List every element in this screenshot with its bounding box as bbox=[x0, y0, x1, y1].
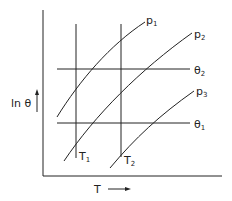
arrow-head-icon bbox=[35, 89, 39, 95]
p1-label: p1 bbox=[146, 14, 157, 28]
p2-curve bbox=[64, 33, 192, 161]
x-axis-label: T bbox=[93, 183, 101, 196]
T1-label: T1 bbox=[78, 150, 90, 164]
p3-curve bbox=[110, 91, 194, 168]
arrow-head-icon bbox=[125, 187, 131, 191]
theta2-label: θ2 bbox=[194, 64, 205, 78]
theta1-label: θ1 bbox=[194, 118, 205, 132]
p3-label: p3 bbox=[196, 85, 207, 99]
diagram: ln θ T p1 p2 p3 θ2 θ1 T1 T2 bbox=[0, 0, 232, 201]
y-axis-label: ln θ bbox=[11, 97, 32, 110]
p2-label: p2 bbox=[194, 28, 205, 42]
T2-label: T2 bbox=[123, 154, 135, 168]
